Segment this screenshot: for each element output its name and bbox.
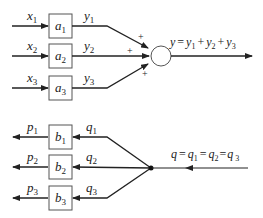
label-y1: y1 [82,8,94,25]
block-diagram: x1 x2 x3 a1 a2 a3 y1 y2 y3 + + + y=y1+y2… [0,0,263,218]
label-p3: p3 [26,180,39,197]
summing-junction [151,46,171,66]
label-y3: y3 [82,70,95,87]
signal-q2 [73,167,151,168]
splitting-section: b1 b2 b3 p1 p2 p3 q1 q2 q3 q=q1=q2=q3 [13,119,248,210]
sign-plus-3: + [142,68,148,79]
equation-q: q=q1=q2=q3 [171,147,239,163]
summing-section: x1 x2 x3 a1 a2 a3 y1 y2 y3 + + + y=y1+y2… [12,8,252,100]
signal-q3 [73,168,151,198]
sign-plus-1: + [138,31,144,42]
label-q3: q3 [86,180,98,197]
label-x2: x2 [26,38,37,55]
label-p2: p2 [26,149,38,166]
label-q2: q2 [86,149,97,166]
sign-plus-2: + [127,45,133,56]
input-arrowhead-q [185,165,193,171]
label-q1: q1 [86,119,97,136]
equation-y: y=y1+y2+y3 [169,35,236,51]
label-x1: x1 [26,8,37,25]
signal-q1 [73,137,151,168]
label-p1: p1 [26,119,38,136]
label-x3: x3 [26,70,38,87]
label-y2: y2 [82,38,94,55]
